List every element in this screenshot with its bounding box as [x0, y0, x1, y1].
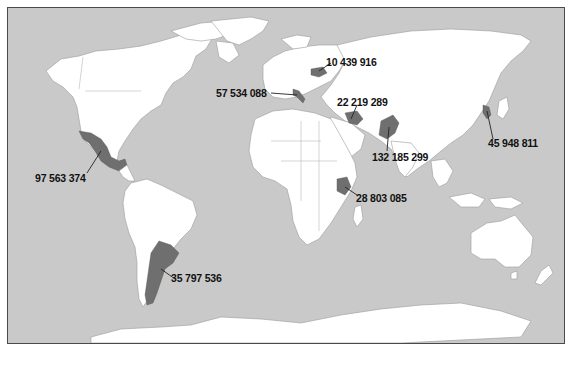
- marker-kenya: 28 803 085: [356, 192, 407, 204]
- australia: [471, 215, 533, 267]
- marker-argentina: 35 797 536: [171, 272, 222, 284]
- antarctica: [91, 303, 531, 343]
- marker-belarus: 10 439 916: [326, 56, 377, 68]
- world-map: [7, 7, 565, 344]
- marker-italy: 57 534 088: [216, 87, 267, 99]
- world-map-canvas: [8, 8, 564, 343]
- marker-iraq: 22 219 289: [337, 96, 388, 108]
- north-america: [46, 31, 213, 163]
- marker-mexico: 97 563 374: [35, 172, 86, 184]
- footer-area: [0, 346, 573, 371]
- marker-pakistan: 132 185 299: [372, 151, 428, 163]
- marker-north-korea: 45 948 811: [488, 137, 538, 149]
